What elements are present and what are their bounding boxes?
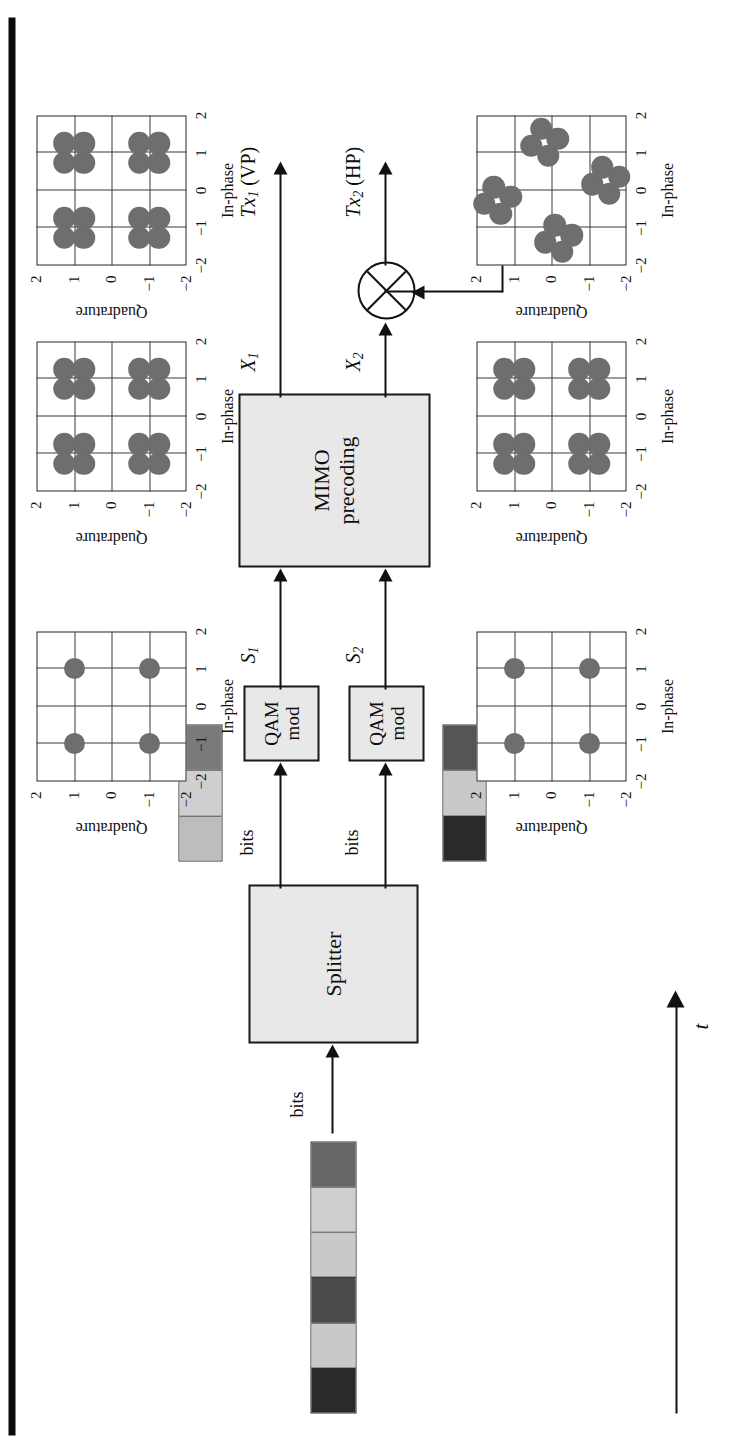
y-tick-label: 1 xyxy=(65,501,82,509)
constellation-point xyxy=(578,658,599,679)
x1-line xyxy=(279,172,281,397)
constellation-x1: −2−1012−2−1012In-phaseQuadrature xyxy=(36,341,186,491)
s1-label: S1 xyxy=(236,646,262,663)
page-gutter-rule xyxy=(8,17,15,1435)
input-bits-arrowhead xyxy=(325,1044,339,1057)
y-tick-label: −2 xyxy=(178,501,195,517)
y-axis-label: Quadrature xyxy=(75,302,147,320)
x2-line-post-mult xyxy=(384,172,386,265)
constellation-point xyxy=(503,733,524,754)
y-tick-label: 2 xyxy=(468,275,485,283)
x-tick-label: 1 xyxy=(192,149,209,157)
x-tick-label: 0 xyxy=(632,186,649,194)
x-tick-label: 1 xyxy=(192,665,209,673)
y-tick-label: 0 xyxy=(543,501,560,509)
gridline-horizontal xyxy=(111,115,112,265)
constellation-point xyxy=(63,658,84,679)
x-tick-label: −1 xyxy=(192,446,209,462)
constellation-point xyxy=(568,358,591,381)
constellation-point xyxy=(529,117,552,140)
block-qam-mod-1[interactable]: QAM mod xyxy=(243,685,319,761)
constellation-tx1-vp: −2−1012−2−1012In-phaseQuadrature xyxy=(36,115,186,265)
block-splitter[interactable]: Splitter xyxy=(248,884,418,1043)
y-tick-label: −2 xyxy=(618,791,635,807)
constellation-point xyxy=(128,358,151,381)
x-tick-label: −1 xyxy=(632,446,649,462)
constellation-point xyxy=(493,358,516,381)
y-tick-label: 0 xyxy=(543,791,560,799)
x-tick-label: 2 xyxy=(192,337,209,345)
x-tick-label: 0 xyxy=(632,412,649,420)
time-axis-label: t xyxy=(688,1023,713,1029)
x-tick-label: −1 xyxy=(192,736,209,752)
bit-strip-input xyxy=(310,1141,356,1413)
branch2-bits-label: bits xyxy=(341,829,362,855)
x-tick-label: 2 xyxy=(632,111,649,119)
bit-segment xyxy=(311,1322,355,1367)
x-tick-label: 2 xyxy=(192,111,209,119)
x-tick-label: 0 xyxy=(192,702,209,710)
x-tick-label: 0 xyxy=(632,702,649,710)
y-axis-label: Quadrature xyxy=(515,302,587,320)
constellation-s2: −2−1012−2−1012In-phaseQuadrature xyxy=(476,631,626,781)
x-axis-label: In-phase xyxy=(658,388,676,443)
x1-label: X1 xyxy=(236,352,262,371)
y-axis-label: Quadrature xyxy=(515,818,587,836)
constellation-x2: −2−1012−2−1012In-phaseQuadrature xyxy=(476,341,626,491)
x-axis-label: In-phase xyxy=(218,388,236,443)
y-axis-label: Quadrature xyxy=(75,818,147,836)
gridline-horizontal xyxy=(551,631,552,781)
constellation-point xyxy=(53,433,76,456)
x-axis-label: In-phase xyxy=(218,162,236,217)
x-axis-label: In-phase xyxy=(658,162,676,217)
y-tick-label: 2 xyxy=(468,501,485,509)
x-tick-label: −2 xyxy=(632,483,649,499)
y-tick-label: 1 xyxy=(65,791,82,799)
x-tick-label: 0 xyxy=(192,186,209,194)
branch2-arrowhead xyxy=(378,762,392,775)
x-tick-label: −1 xyxy=(632,220,649,236)
time-axis-arrowhead xyxy=(666,990,684,1007)
constellation-point xyxy=(128,132,151,155)
x1-arrowhead xyxy=(273,161,287,174)
x2-arrowhead xyxy=(378,161,392,174)
x-tick-label: 1 xyxy=(632,375,649,383)
constellation-point xyxy=(53,132,76,155)
gridline-horizontal xyxy=(589,631,590,781)
y-tick-label: −2 xyxy=(618,501,635,517)
constellation-point xyxy=(503,658,524,679)
plot-gridlines xyxy=(36,631,186,781)
s2-arrowhead xyxy=(378,568,392,581)
gridline-horizontal xyxy=(111,341,112,491)
s2-line xyxy=(384,579,386,689)
gridline-horizontal xyxy=(514,631,515,781)
bit-segment xyxy=(443,815,485,860)
x-tick-label: 0 xyxy=(192,412,209,420)
constellation-point xyxy=(568,433,591,456)
constellation-point xyxy=(63,733,84,754)
y-tick-label: 0 xyxy=(543,275,560,283)
y-tick-label: 1 xyxy=(505,791,522,799)
s1-arrowhead xyxy=(273,568,287,581)
x-tick-label: −2 xyxy=(632,257,649,273)
branch1-arrowhead xyxy=(273,762,287,775)
x2-pre-mult-arrowhead xyxy=(378,322,392,335)
y-axis-label: Quadrature xyxy=(515,528,587,546)
block-mimo-precoding[interactable]: MIMO precoding xyxy=(238,393,430,567)
y-tick-label: 2 xyxy=(28,791,45,799)
x-tick-label: 1 xyxy=(632,665,649,673)
tx1-label: Tx1 (VP) xyxy=(236,146,262,217)
x-tick-label: −2 xyxy=(192,257,209,273)
tx2-label: Tx2 (HP) xyxy=(341,146,367,217)
splitter-branch1-line xyxy=(279,773,281,888)
figure-canvas: t bits Splitter bits bits QAM xyxy=(0,0,743,1453)
x-axis-label: In-phase xyxy=(218,678,236,733)
gridline-horizontal xyxy=(149,631,150,781)
phase-rotator-arrowhead xyxy=(411,285,424,299)
block-qam-mod-2[interactable]: QAM mod xyxy=(348,685,424,761)
input-bits-label: bits xyxy=(286,1091,307,1117)
branch1-bits-label: bits xyxy=(236,829,257,855)
y-tick-label: 0 xyxy=(103,791,120,799)
x2-label: X2 xyxy=(341,352,367,371)
x2-line-pre-mult xyxy=(384,332,386,397)
